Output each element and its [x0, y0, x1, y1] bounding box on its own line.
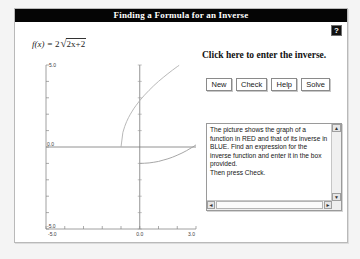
scroll-down-icon[interactable]: ▼: [332, 193, 341, 201]
scroll-right-icon[interactable]: ►: [324, 201, 332, 209]
scroll-up-icon[interactable]: ▲: [332, 124, 341, 132]
app-root: Finding a Formula for an Inverse ? f(x) …: [0, 0, 360, 259]
scroll-left-icon[interactable]: ◄: [207, 201, 215, 209]
formula-radicand: 2x+2: [66, 38, 87, 49]
radical-group: √2x+2: [60, 37, 87, 49]
graph-canvas: 5.00.0-5.0-5.00.03.0: [24, 57, 204, 247]
horizontal-scrollbar[interactable]: ◄ ►: [207, 200, 332, 210]
solve-button[interactable]: Solve: [301, 78, 330, 91]
axis-tick-label: 0.0: [136, 231, 143, 237]
axis-tick-label: 5.0: [49, 62, 56, 68]
curve-series-1: [140, 145, 196, 164]
function-formula: f(x) = 2√2x+2: [32, 37, 152, 55]
new-button[interactable]: New: [206, 78, 232, 91]
instructions-panel: The picture shows the graph of a functio…: [206, 123, 342, 211]
axis-tick-label: 0.0: [47, 141, 54, 147]
axis-tick-label: -5.0: [47, 223, 56, 229]
vertical-scrollbar[interactable]: ▲ ▼: [331, 124, 341, 201]
help-question-icon[interactable]: ?: [331, 25, 342, 36]
axis-tick-label: -5.0: [48, 231, 57, 237]
application-window: Finding a Formula for an Inverse ? f(x) …: [14, 8, 348, 243]
enter-inverse-prompt[interactable]: Click here to enter the inverse.: [202, 50, 352, 60]
scrollbar-thumb[interactable]: [216, 201, 323, 209]
function-graph: 5.00.0-5.0-5.00.03.0: [24, 57, 204, 247]
formula-lhs: f(x) =: [32, 39, 53, 49]
instructions-text: The picture shows the graph of a functio…: [210, 126, 330, 178]
page-title: Finding a Formula for an Inverse: [114, 10, 249, 20]
window-title-bar: Finding a Formula for an Inverse: [15, 9, 347, 22]
scrollbar-corner: [332, 201, 341, 210]
axis-tick-label: 3.0: [188, 231, 195, 237]
check-button[interactable]: Check: [236, 78, 267, 91]
action-button-row: New Check Help Solve: [206, 78, 330, 91]
window-client-area: ? f(x) = 2√2x+2 Click here to enter the …: [16, 23, 346, 241]
curve-series-0: [121, 65, 179, 147]
help-button[interactable]: Help: [271, 78, 297, 91]
